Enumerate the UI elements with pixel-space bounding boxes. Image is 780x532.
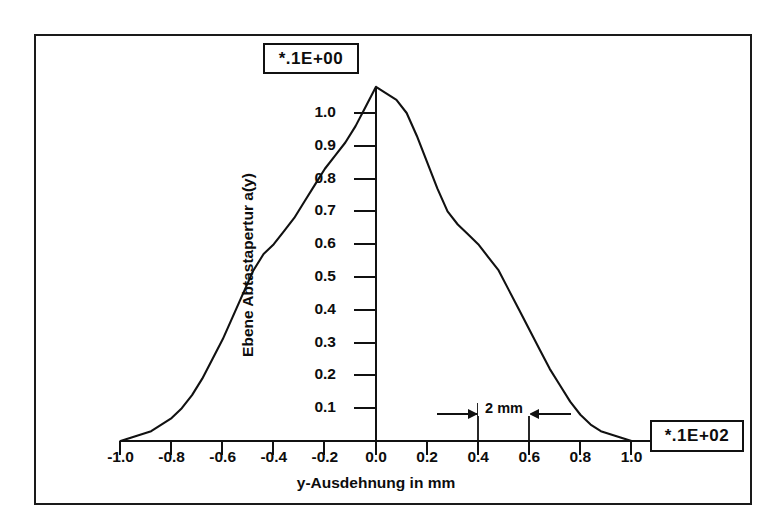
y-tick-label: 0.1 [300,398,336,416]
y-tick-label: 0.9 [300,136,336,154]
x-tick-label: 0.8 [552,448,608,466]
x-tick-label: -0.2 [297,448,353,466]
y-axis-title: Ebene Abtastapertur a(y) [239,173,257,357]
x-tick-label: 0.2 [399,448,455,466]
dimension-label-2mm: 2 mm [478,400,530,416]
y-tick-label: 0.4 [300,300,336,318]
x-tick-label: 0.4 [450,448,506,466]
figure-page: *.1E+00 *.1E+02 2 mm -1.0-0.8-0.6-0.4-0.… [0,0,780,532]
x-tick-label: -0.4 [246,448,302,466]
y-tick-label: 0.6 [300,234,336,252]
x-tick-label: -0.8 [144,448,200,466]
x-axis-title: y-Ausdehnung in mm [297,474,455,492]
x-tick-label: 1.0 [604,448,660,466]
y-tick-label: 1.0 [300,103,336,121]
y-tick-label: 0.8 [300,169,336,187]
x-axis-exponent-box: *.1E+02 [650,420,744,452]
y-tick-label: 0.3 [300,333,336,351]
y-tick-label: 0.5 [300,267,336,285]
x-tick-label: 0.6 [501,448,557,466]
y-axis-exponent-box: *.1E+00 [263,43,359,74]
y-tick-label: 0.7 [300,201,336,219]
x-tick-label: -0.6 [195,448,251,466]
y-axis-ticks [354,113,376,408]
y-tick-label: 0.2 [300,365,336,383]
x-tick-label: -1.0 [93,448,149,466]
x-tick-label: 0.0 [348,448,404,466]
